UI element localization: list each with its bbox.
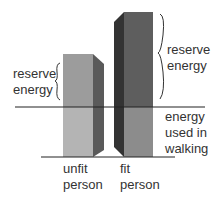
diagram-graphic xyxy=(0,0,218,199)
label-line: energy xyxy=(165,109,208,125)
unfit-person-label: unfit person xyxy=(63,161,103,193)
label-line: reserve xyxy=(167,42,210,58)
label-line: reserve xyxy=(13,66,56,82)
unfit-walking-segment xyxy=(63,107,93,157)
label-line: energy xyxy=(167,58,210,74)
label-line: fit xyxy=(120,161,160,177)
label-line: walking xyxy=(165,141,208,157)
right-brace-icon xyxy=(158,14,164,99)
fit-person-bar xyxy=(114,12,153,157)
fit-person-label: fit person xyxy=(120,161,160,193)
fit-walking-segment xyxy=(124,107,153,157)
fit-reserve-label: reserve energy xyxy=(167,42,210,74)
unfit-person-bar xyxy=(63,54,104,157)
unfit-reserve-label: reserve energy xyxy=(13,66,56,98)
label-line: unfit xyxy=(63,161,103,177)
fit-reserve-segment xyxy=(124,12,153,107)
label-line: person xyxy=(63,177,103,193)
label-line: energy xyxy=(13,82,56,98)
label-line: used in xyxy=(165,125,208,141)
label-line: person xyxy=(120,177,160,193)
unfit-reserve-segment xyxy=(63,54,93,107)
energy-reserve-diagram: reserve energy reserve energy energy use… xyxy=(0,0,218,199)
unfit-bar-side xyxy=(93,54,104,157)
walking-energy-label: energy used in walking xyxy=(165,109,208,157)
fit-bar-side xyxy=(114,12,124,157)
